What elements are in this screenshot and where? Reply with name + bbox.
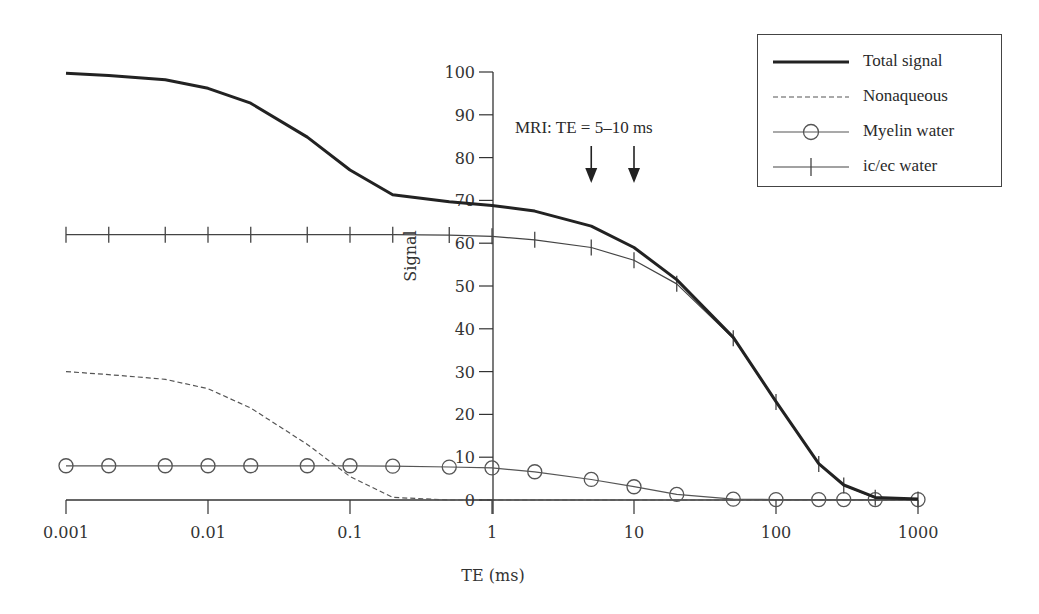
legend-item-nonaqueous: Nonaqueous — [758, 82, 1001, 112]
legend-item-myelin-water: Myelin water — [758, 117, 1001, 147]
legend-item-total-signal: Total signal — [758, 47, 1001, 77]
thick-line-swatch-icon — [773, 47, 853, 77]
y-tick-label: 60 — [455, 234, 475, 253]
y-tick-label: 40 — [455, 320, 475, 339]
y-tick-label: 50 — [455, 277, 475, 296]
y-tick-label: 90 — [455, 106, 475, 125]
dashed-line-swatch-icon — [773, 82, 853, 112]
series-nonaqueous — [66, 372, 918, 500]
x-axis-title: TE (ms) — [461, 566, 524, 585]
legend-label: Nonaqueous — [863, 86, 948, 106]
y-tick-label: 100 — [444, 63, 475, 82]
down-arrow-icon — [628, 168, 640, 183]
x-tick-label: 100 — [761, 523, 792, 542]
x-axis: 0.0010.010.11101001000 — [43, 500, 938, 542]
legend: Total signal Nonaqueous Myelin water ic/… — [757, 34, 1002, 187]
down-arrow-icon — [585, 168, 597, 183]
y-tick-label: 80 — [455, 149, 475, 168]
x-tick-label: 0.001 — [43, 523, 89, 542]
y-tick-label: 10 — [455, 448, 475, 467]
y-axis-title: Signal — [401, 230, 420, 281]
x-tick-label: 1000 — [898, 523, 939, 542]
annotation-arrows — [585, 146, 640, 183]
plus-marker-swatch-icon — [773, 152, 853, 182]
mri-te-annotation: MRI: TE = 5–10 ms — [515, 118, 653, 138]
legend-label: ic/ec water — [863, 156, 937, 176]
legend-item-icec-water: ic/ec water — [758, 152, 1001, 182]
y-tick-label: 20 — [455, 405, 475, 424]
y-axis: 0102030405060708090100 — [444, 63, 493, 514]
y-tick-label: 30 — [455, 363, 475, 382]
x-tick-label: 10 — [624, 523, 644, 542]
legend-label: Myelin water — [863, 121, 954, 141]
x-tick-label: 1 — [487, 523, 497, 542]
circle-marker-swatch-icon — [773, 117, 853, 147]
y-tick-label: 70 — [455, 191, 475, 210]
x-tick-label: 0.01 — [190, 523, 226, 542]
x-tick-label: 0.1 — [337, 523, 362, 542]
legend-label: Total signal — [863, 51, 943, 71]
